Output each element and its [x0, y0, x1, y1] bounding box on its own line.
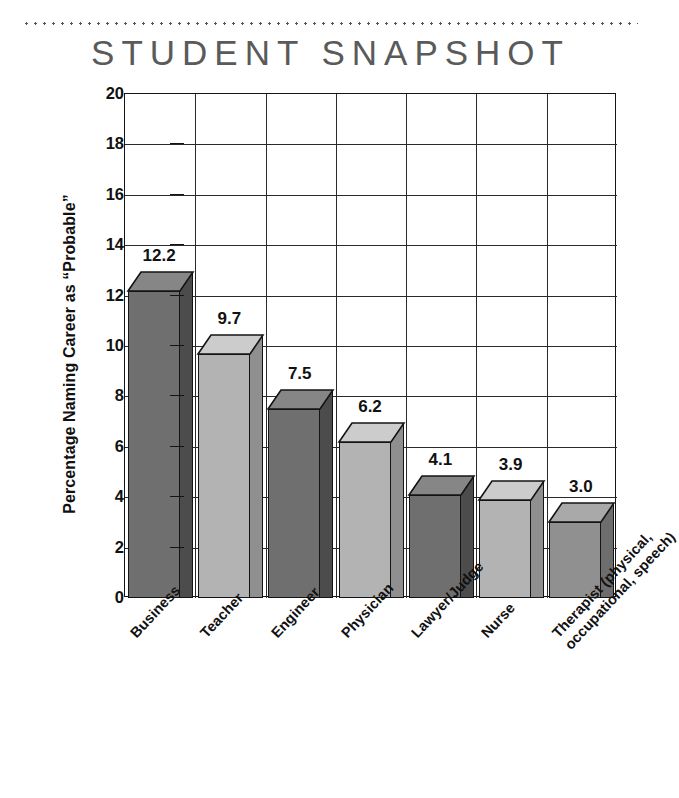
- bar-front-face: [198, 354, 250, 598]
- plot-area: [124, 93, 616, 597]
- bar-value-label: 7.5: [265, 365, 335, 382]
- y-axis-tick-label: 6: [90, 438, 124, 455]
- bar: [409, 94, 474, 598]
- bar-side-face: [250, 335, 263, 598]
- bar-value-label: 3.9: [476, 456, 546, 473]
- gridline-vertical: [195, 94, 196, 598]
- bar-front-face: [268, 409, 320, 598]
- bar-top-face: [339, 423, 391, 442]
- y-axis-tick-mark: [170, 446, 184, 447]
- bar: [128, 94, 193, 598]
- gridline-vertical: [476, 94, 477, 598]
- gridline-vertical: [547, 94, 548, 598]
- bar-side-face: [180, 272, 193, 598]
- y-axis-tick-mark: [170, 496, 184, 497]
- y-axis-tick-label: 18: [90, 135, 124, 152]
- y-axis-tick-label: 0: [90, 589, 124, 606]
- bar-value-label: 4.1: [405, 451, 475, 468]
- x-axis-category-label: Nurse: [478, 600, 519, 642]
- bar: [339, 94, 404, 598]
- gridline-vertical: [406, 94, 407, 598]
- y-axis-tick-mark: [170, 194, 184, 195]
- bar: [198, 94, 263, 598]
- bar: [268, 94, 333, 598]
- y-axis-tick-mark: [170, 93, 184, 94]
- y-axis-tick-label: 10: [90, 337, 124, 354]
- x-axis-category-line: Nurse: [478, 600, 518, 641]
- bar-value-label: 3.0: [546, 478, 616, 495]
- bar-value-label: 12.2: [124, 247, 194, 264]
- bar-front-face: [479, 500, 531, 598]
- bar: [479, 94, 544, 598]
- y-axis-tick-label: 8: [90, 387, 124, 404]
- y-axis-tick-mark: [170, 345, 184, 346]
- y-axis-tick-label: 14: [90, 236, 124, 253]
- bar-top-face: [479, 481, 531, 500]
- y-axis-tick-mark: [170, 395, 184, 396]
- bar-front-face: [128, 291, 180, 598]
- bar-side-face: [391, 423, 404, 598]
- y-axis-tick-label: 12: [90, 286, 124, 303]
- y-axis-tick-label: 4: [90, 488, 124, 505]
- gridline-vertical: [336, 94, 337, 598]
- bar-top-face: [198, 335, 250, 354]
- y-axis-tick-mark: [170, 143, 184, 144]
- bar-front-face: [339, 442, 391, 598]
- gridline-vertical: [266, 94, 267, 598]
- bar-top-face: [409, 476, 461, 495]
- bar-top-face: [128, 272, 180, 291]
- bar-side-face: [320, 390, 333, 598]
- y-axis-tick-mark: [170, 295, 184, 296]
- y-axis-tick-mark: [170, 547, 184, 548]
- y-axis-title: Percentage Naming Career as “Probable”: [61, 134, 79, 574]
- y-axis-tick-label: 16: [90, 186, 124, 203]
- bar-value-label: 6.2: [335, 398, 405, 415]
- bar: [549, 94, 614, 598]
- y-axis-tick-label: 2: [90, 538, 124, 555]
- bar-value-label: 9.7: [194, 310, 264, 327]
- bar-top-face: [268, 390, 320, 409]
- y-axis-tick-label: 20: [90, 85, 124, 102]
- bar-top-face: [549, 503, 601, 522]
